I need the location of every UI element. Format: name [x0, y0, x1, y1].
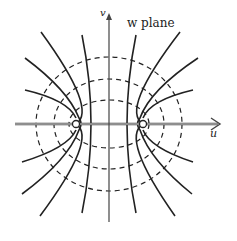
conformal-map-diagram — [0, 0, 237, 241]
u-axis-label: u — [210, 127, 217, 140]
focus-marker — [73, 121, 80, 128]
hyperbola — [143, 130, 193, 162]
plane-title: w plane — [127, 16, 175, 30]
focus-marker — [140, 121, 147, 128]
v-axis-label: v — [100, 7, 106, 18]
v-axis-arrow-icon — [106, 13, 112, 20]
hyperbola — [22, 130, 76, 162]
hyperbola — [22, 58, 81, 194]
